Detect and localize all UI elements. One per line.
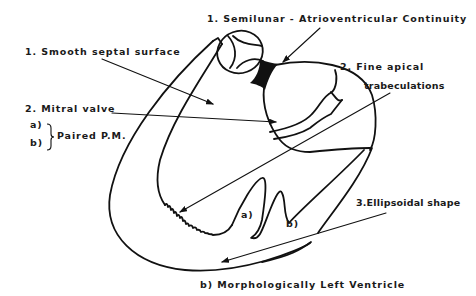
label-fine-apical-line2: trabeculations bbox=[364, 81, 444, 91]
label-ellipsoidal-shape: 3.Ellipsoidal shape bbox=[356, 198, 460, 208]
arrow-semilunar bbox=[283, 28, 320, 62]
outer-right-wall bbox=[318, 148, 372, 233]
label-mitral-valve: 2. Mitral valve bbox=[25, 104, 115, 114]
diagram-caption: b) Morphologically Left Ventricle bbox=[200, 280, 405, 290]
label-paired-pm: Paired P.M. bbox=[57, 131, 126, 141]
label-pm-b: b) bbox=[30, 138, 43, 148]
label-muscle-b: b) bbox=[286, 219, 299, 229]
label-smooth-septal-surface: 1. Smooth septal surface bbox=[25, 47, 181, 57]
inner-septal-wall bbox=[157, 44, 222, 205]
aortic-tip bbox=[213, 38, 222, 44]
arrow-smooth-septal bbox=[102, 59, 213, 104]
mitral-posterior-leaflet bbox=[274, 100, 342, 139]
ventricle-drawing bbox=[0, 0, 476, 296]
arrow-ellipsoidal bbox=[222, 213, 386, 262]
aortic-cusp-1 bbox=[228, 36, 235, 68]
trabeculated-inner-surface bbox=[165, 204, 232, 235]
label-fine-apical-line1: 2. Fine apical bbox=[340, 62, 424, 72]
fibrous-continuity bbox=[250, 59, 278, 90]
mitral-anterior-leaflet bbox=[270, 70, 336, 132]
paired-pm-brace bbox=[47, 124, 54, 150]
label-semilunar-av-continuity: 1. Semilunar - Atrioventricular Continui… bbox=[207, 14, 467, 24]
label-muscle-a: a) bbox=[241, 210, 254, 220]
label-pm-a: a) bbox=[30, 120, 43, 130]
arrow-fine-apical bbox=[180, 93, 390, 212]
mitral-valve-left-arc bbox=[264, 88, 370, 152]
arrow-mitral-valve bbox=[112, 113, 276, 122]
left-ventricle-diagram: 1. Semilunar - Atrioventricular Continui… bbox=[0, 0, 476, 296]
mitral-leaflet-bridge bbox=[331, 92, 342, 101]
